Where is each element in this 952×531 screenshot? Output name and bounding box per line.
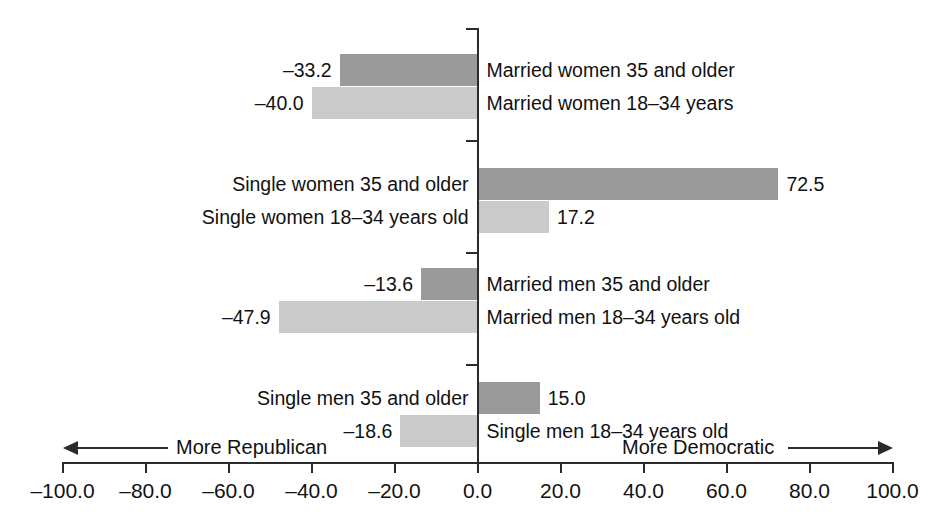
right-arrow-line [788,447,878,449]
bar [421,268,477,300]
plot-area: –33.2Married women 35 and older–40.0Marr… [0,0,952,531]
bar [478,201,549,233]
group-separator-tick [466,252,477,254]
bar-value-label: –13.6 [364,268,413,300]
bar [478,382,540,414]
bar-category-label: Married men 35 and older [487,268,710,300]
group-separator-tick [466,28,477,30]
bar [279,301,478,333]
bar-chart: –33.2Married women 35 and older–40.0Marr… [0,0,952,531]
bar-value-label: –40.0 [255,87,304,119]
bar-category-label: Married women 18–34 years [487,87,734,119]
x-axis-tick [809,462,811,473]
bar-value-label: –47.9 [222,301,271,333]
x-axis-tick [311,462,313,473]
bar [478,168,779,200]
bar-value-label: 15.0 [548,382,586,414]
x-axis-tick [62,462,64,473]
x-axis-line [63,462,894,464]
bar-value-label: 72.5 [786,168,824,200]
group-separator-tick [466,140,477,142]
bar-value-label: 17.2 [557,201,595,233]
bar-category-label: Single women 35 and older [232,168,468,200]
x-axis-tick [643,462,645,473]
left-arrow-head-icon [63,441,78,455]
bar-value-label: –33.2 [283,54,332,86]
bar-category-label: Married men 18–34 years old [487,301,741,333]
x-axis-tick [560,462,562,473]
bar-category-label: Single men 35 and older [257,382,468,414]
bar-category-label: Single women 18–34 years old [202,201,469,233]
x-axis-tick [145,462,147,473]
x-axis-tick [394,462,396,473]
x-axis-tick [477,462,479,473]
x-axis-tick [228,462,230,473]
x-axis-tick-label: 100.0 [833,478,952,504]
left-arrow-line [78,447,168,449]
more-republican-label: More Republican [176,434,327,460]
bar [340,54,478,86]
right-arrow-head-icon [878,441,893,455]
group-separator-tick [466,364,477,366]
bar [400,415,477,447]
bar-value-label: –18.6 [344,415,393,447]
zero-baseline [477,28,479,462]
x-axis-tick [892,462,894,473]
more-democratic-label: More Democratic [622,434,774,460]
x-axis-tick [726,462,728,473]
bar [312,87,478,119]
bar-category-label: Married women 35 and older [487,54,735,86]
